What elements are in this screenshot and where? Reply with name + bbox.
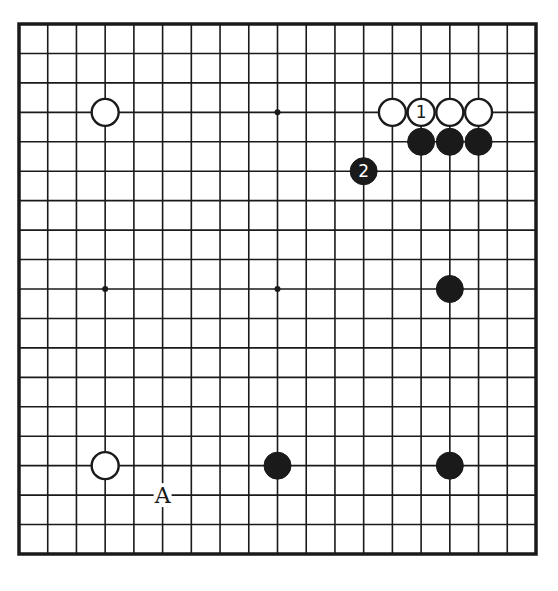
go-board: 12 A (0, 0, 558, 591)
black-stone-disc (436, 276, 463, 303)
white-stone (92, 452, 119, 479)
star-point (102, 286, 108, 292)
white-stone-disc (436, 99, 463, 126)
white-stone (436, 99, 463, 126)
white-stone-disc (92, 99, 119, 126)
white-stone-disc (465, 99, 492, 126)
star-point (275, 286, 281, 292)
white-stone-disc (92, 452, 119, 479)
white-stone: 1 (408, 99, 435, 126)
move-number-label: 1 (416, 102, 427, 122)
black-stone (436, 276, 463, 303)
move-number-label: 2 (358, 161, 369, 181)
black-stone (264, 452, 291, 479)
black-stone-disc (408, 128, 435, 155)
black-stone (408, 128, 435, 155)
black-stone-disc (436, 128, 463, 155)
black-stone-disc (264, 452, 291, 479)
white-stone-disc (379, 99, 406, 126)
black-stone-disc (436, 452, 463, 479)
white-stone (92, 99, 119, 126)
black-stone (436, 128, 463, 155)
black-stone: 2 (350, 158, 377, 185)
position-marker-label: A (154, 483, 172, 508)
black-stone-disc (465, 128, 492, 155)
star-point (275, 109, 281, 115)
black-stone (465, 128, 492, 155)
white-stone (379, 99, 406, 126)
white-stone (465, 99, 492, 126)
markers: A (154, 483, 172, 508)
black-stone (436, 452, 463, 479)
